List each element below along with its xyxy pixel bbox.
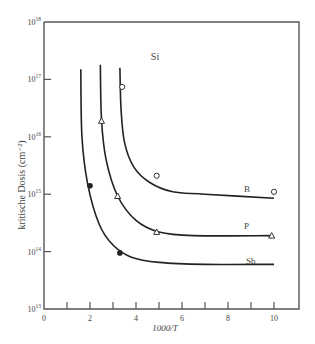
y-tick-label: 1014 bbox=[28, 246, 42, 257]
x-tick-label: 6 bbox=[180, 314, 184, 323]
open-circle-marker bbox=[271, 189, 276, 194]
x-tick-label: 0 bbox=[42, 314, 46, 323]
x-axis-ticks: 0246810 bbox=[42, 302, 278, 323]
series-label-b: B bbox=[244, 184, 250, 194]
series-label-p: P bbox=[244, 221, 249, 231]
y-axis-label: kritische Dosis (cm⁻²) bbox=[16, 140, 28, 229]
chart: 101310141015101610171018 0246810 Si 1000… bbox=[0, 0, 315, 344]
filled-circle-marker bbox=[87, 183, 93, 189]
open-triangle-marker bbox=[99, 118, 105, 124]
plot-frame bbox=[44, 22, 299, 309]
y-tick-label: 1018 bbox=[28, 16, 42, 27]
open-circle-marker bbox=[120, 84, 125, 89]
y-tick-label: 1016 bbox=[28, 131, 42, 142]
x-axis-label: 1000/T bbox=[152, 323, 179, 333]
curve-b bbox=[120, 68, 274, 199]
open-circle-marker bbox=[154, 173, 159, 178]
x-tick-label: 10 bbox=[270, 314, 278, 323]
y-tick-label: 1013 bbox=[28, 303, 42, 314]
y-tick-label: 1015 bbox=[28, 188, 42, 199]
x-tick-label: 4 bbox=[134, 314, 138, 323]
annotation-si: Si bbox=[151, 51, 160, 62]
filled-circle-marker bbox=[117, 250, 123, 256]
y-tick-label: 1017 bbox=[28, 73, 42, 84]
x-tick-label: 2 bbox=[88, 314, 92, 323]
x-tick-label: 8 bbox=[226, 314, 230, 323]
y-axis-ticks: 101310141015101610171018 bbox=[28, 16, 52, 314]
series-label-sb: Sb bbox=[246, 256, 256, 266]
curves bbox=[81, 65, 274, 265]
open-triangle-marker bbox=[115, 193, 121, 199]
